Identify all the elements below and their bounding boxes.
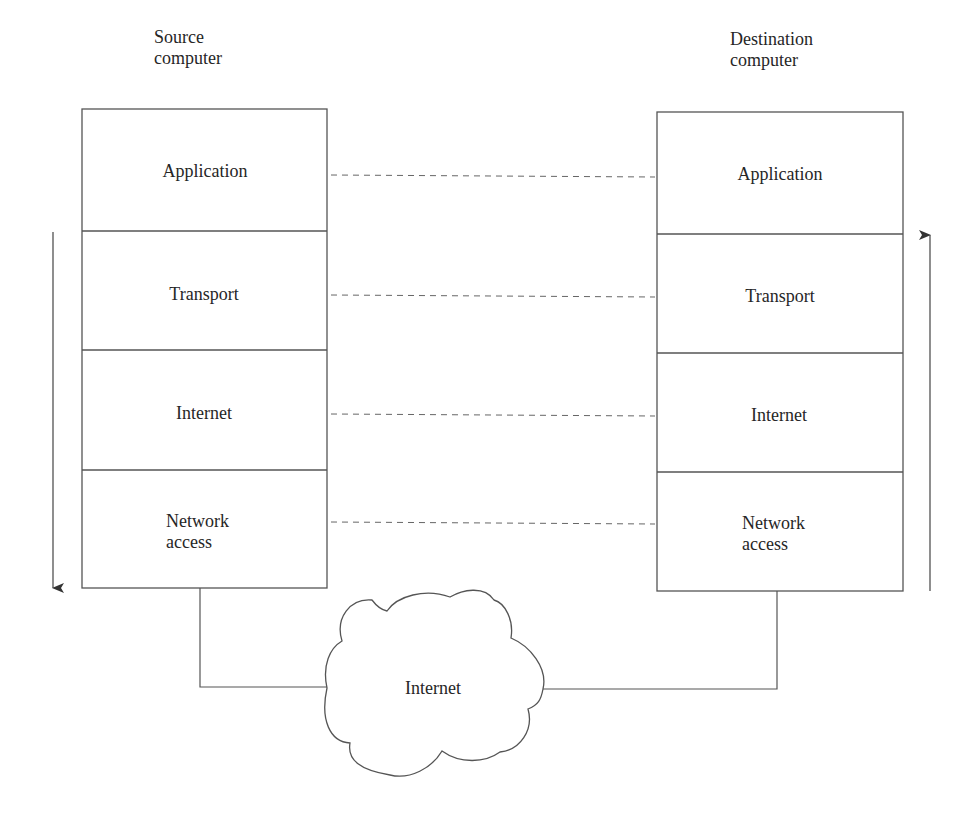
source-layer-internet: Internet bbox=[176, 403, 232, 424]
source-layer-network-access-line2: access bbox=[166, 532, 229, 553]
diagram-canvas bbox=[0, 0, 974, 826]
source-title-line2: computer bbox=[154, 48, 222, 69]
source-layer-transport: Transport bbox=[169, 284, 238, 305]
destination-layer-application: Application bbox=[738, 164, 823, 185]
peer-link-network-access bbox=[331, 522, 655, 524]
destination-layer-network-access: Network access bbox=[742, 513, 805, 555]
source-connector bbox=[200, 588, 327, 687]
destination-layer-internet: Internet bbox=[751, 405, 807, 426]
source-layer-application: Application bbox=[163, 161, 248, 182]
peer-link-internet bbox=[331, 414, 655, 416]
destination-layer-transport: Transport bbox=[745, 286, 814, 307]
peer-links bbox=[331, 175, 655, 524]
source-title-line1: Source bbox=[154, 27, 222, 48]
tcpip-layer-diagram: Source computer Destination computer App… bbox=[0, 0, 974, 826]
destination-title-line1: Destination bbox=[730, 29, 813, 50]
peer-link-transport bbox=[331, 295, 655, 297]
source-title: Source computer bbox=[154, 27, 222, 69]
destination-layer-network-access-line2: access bbox=[742, 534, 805, 555]
source-layer-network-access: Network access bbox=[166, 511, 229, 553]
destination-title-line2: computer bbox=[730, 50, 813, 71]
destination-layer-network-access-line1: Network bbox=[742, 513, 805, 534]
source-layer-network-access-line1: Network bbox=[166, 511, 229, 532]
peer-link-application bbox=[331, 175, 655, 177]
internet-cloud-label: Internet bbox=[405, 678, 461, 699]
destination-connector bbox=[543, 591, 777, 689]
destination-title: Destination computer bbox=[730, 29, 813, 71]
